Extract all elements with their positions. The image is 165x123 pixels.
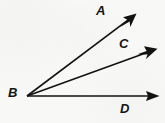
ray-bd-arrowhead <box>146 91 160 101</box>
ray-figure-svg <box>0 0 165 123</box>
vertex-label-b: B <box>8 86 17 99</box>
ray-bc-group <box>27 46 158 96</box>
ray-label-c: C <box>119 37 128 50</box>
ray-bc-arrowhead <box>137 46 157 59</box>
ray-ba-group <box>27 14 137 97</box>
ray-label-d: D <box>120 102 129 115</box>
ray-ba-line <box>27 18 131 96</box>
geometry-diagram: B A C D <box>0 0 165 123</box>
ray-label-a: A <box>96 4 105 17</box>
ray-bd-group <box>27 91 160 101</box>
ray-ba-arrowhead <box>120 14 137 28</box>
ray-bc-line <box>27 51 151 96</box>
